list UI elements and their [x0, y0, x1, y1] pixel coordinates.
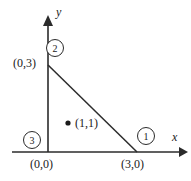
vertex-label-x-intercept: (3,0)	[121, 158, 144, 170]
x-axis-arrowhead	[179, 147, 188, 157]
y-axis-label: y	[56, 6, 61, 18]
edge-marker-2: 2	[46, 39, 64, 57]
x-axis-label: x	[172, 131, 177, 143]
edge-marker-3: 3	[23, 131, 41, 149]
interior-point-label: (1,1)	[75, 117, 98, 129]
vertex-label-origin: (0,0)	[30, 158, 53, 170]
diagram-canvas	[0, 0, 191, 181]
geometry-figure: y x (0,3) (0,0) (3,0) (1,1) 1 2 3	[0, 0, 191, 181]
hypotenuse-line	[48, 65, 137, 152]
y-axis-arrowhead	[43, 15, 53, 26]
edge-marker-1: 1	[137, 127, 155, 145]
vertex-label-y-intercept: (0,3)	[13, 57, 36, 69]
interior-point-dot	[65, 120, 70, 125]
